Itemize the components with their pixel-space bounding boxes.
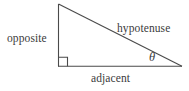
hypotenuse-side-line: [59, 4, 183, 66]
label-opposite: opposite: [7, 32, 47, 44]
label-adjacent: adjacent: [91, 72, 130, 84]
label-hypotenuse: hypotenuse: [117, 22, 170, 34]
label-theta-angle: θ: [149, 51, 155, 63]
trigonometry-figure: opposite hypotenuse adjacent θ: [0, 0, 189, 91]
right-angle-marker-icon: [59, 57, 68, 66]
